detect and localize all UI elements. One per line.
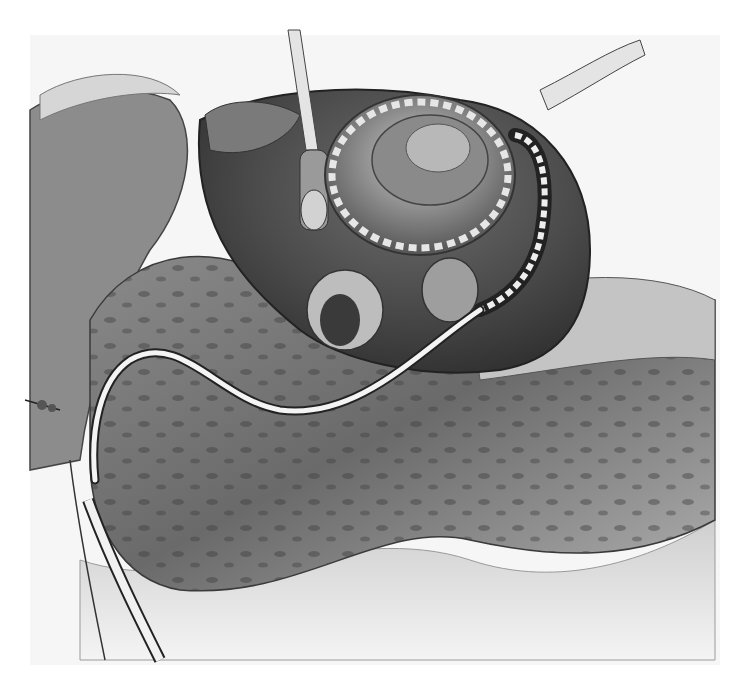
illustration-canvas (0, 0, 731, 696)
valve-center (406, 124, 470, 172)
surgical-illustration (0, 0, 731, 696)
cannula-tip (301, 190, 327, 230)
vein-opening-left-inner (320, 294, 360, 346)
